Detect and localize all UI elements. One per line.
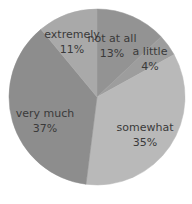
slice-percent: 11% [60, 43, 84, 56]
slice-percent: 35% [133, 136, 157, 149]
slice-percent: 4% [141, 60, 158, 73]
slice-percent: 13% [100, 47, 124, 60]
slice-category: very much [16, 107, 75, 120]
slice-percent: 37% [33, 122, 57, 135]
slice-category: somewhat [117, 121, 175, 134]
slice-category: extremely [44, 28, 100, 41]
pie-chart: not at all13%a little4%somewhat35%very m… [0, 0, 192, 204]
slice-category: a little [133, 45, 168, 58]
